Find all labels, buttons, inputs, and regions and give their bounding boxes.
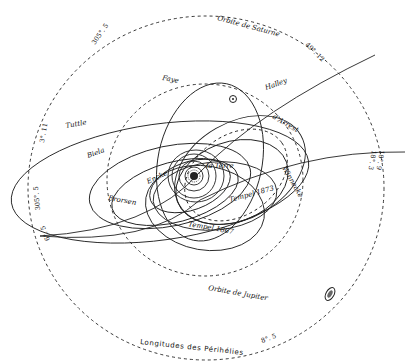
winnecke-orbit [164, 125, 300, 240]
sun-icon [188, 170, 200, 182]
comet-orbits-diagram: Orbite de Saturne Orbite de Jupiter Long… [0, 0, 410, 364]
comet-label-winnecke: Winnecke [280, 165, 304, 199]
degree-label-bottom-right: 8°. 5 [260, 332, 277, 345]
jupiter-orbit-label: Orbite de Jupiter [208, 284, 269, 302]
degree-label-top-left: 305°. 5 [90, 22, 110, 46]
uranus-icon [230, 96, 237, 103]
degree-label-top-right: 49°. 12 [304, 41, 327, 64]
comet-label-tempel-1867: Tempel 1867 [188, 220, 235, 236]
jupiter-orbit [107, 84, 303, 276]
comet-label-biela: Biela [85, 146, 106, 160]
saturn-icon [323, 286, 337, 302]
comet-label-tuttle: Tuttle [65, 118, 87, 130]
comet-label-faye: Faye [161, 74, 180, 85]
degree-label-left-mid: 305°. 5 [32, 186, 42, 211]
comet-label-halley: Halley [263, 76, 289, 92]
degree-label-left-lower: 6°. 5 [39, 225, 52, 242]
earth-label: la Terre [206, 162, 234, 170]
saturn-orbit-label: Orbite de Saturne [216, 14, 280, 38]
comet-label-tempel-1873: Tempel 1873 [228, 184, 275, 204]
saturn-orbit [28, 16, 384, 360]
perihelion-longitudes-title: Longitudes des Périhélies [140, 338, 244, 357]
